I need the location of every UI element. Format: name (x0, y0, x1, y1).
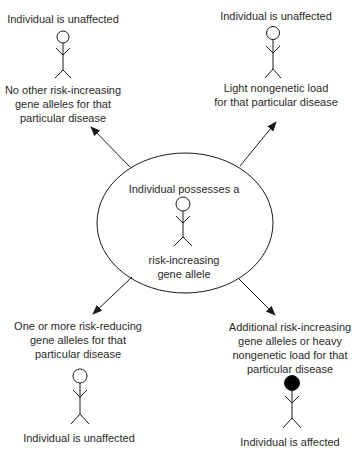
bottom-right-condition-line-1: Additional risk-increasing (229, 320, 351, 334)
top-left-condition-line-2: gene alleles for that (5, 97, 121, 111)
top-left-condition-line-3: particular disease (5, 111, 121, 125)
bottom-right-condition-label: Additional risk-increasing gene alleles … (229, 320, 351, 376)
arrow-bottom-left (93, 277, 132, 314)
top-right-result-label: Individual is unaffected (220, 9, 332, 23)
arrow-top-left (91, 127, 130, 167)
bottom-right-result-label: Individual is affected (240, 435, 339, 449)
bottom-right-condition-line-2: gene alleles or heavy (229, 334, 351, 348)
bottom-right-condition-line-4: particular disease (229, 362, 351, 376)
stick-figure-icon-bottom-right-affected (283, 376, 301, 429)
bottom-left-condition-line-2: gene alleles for that (14, 333, 142, 347)
arrow-top-right (240, 122, 276, 166)
stick-figure-icon-bottom-left (71, 369, 89, 424)
stick-figure-icon-top-left (55, 31, 71, 78)
arrow-bottom-right (238, 278, 275, 315)
top-left-condition-label: No other risk-increasing gene alleles fo… (5, 83, 121, 125)
top-left-result-label: Individual is unaffected (7, 12, 119, 26)
bottom-left-condition-label: One or more risk-reducing gene alleles f… (14, 319, 142, 361)
bottom-left-condition-line-3: particular disease (14, 347, 142, 361)
bottom-left-condition-line-1: One or more risk-reducing (14, 319, 142, 333)
bottom-left-result-label: Individual is unaffected (23, 431, 135, 445)
center-bottom-label: risk-increasing gene allele (149, 253, 220, 281)
top-right-condition-line-2: for that particular disease (214, 95, 338, 109)
top-right-condition-label: Light nongenetic load for that particula… (214, 81, 338, 109)
stick-figure-icon-center (174, 197, 192, 246)
diagram-canvas (0, 0, 361, 460)
stick-figure-icon-top-right (265, 27, 281, 79)
top-left-condition-line-1: No other risk-increasing (5, 83, 121, 97)
center-top-label: Individual possesses a (129, 182, 240, 196)
top-right-condition-line-1: Light nongenetic load (214, 81, 338, 95)
bottom-right-condition-line-3: nongenetic load for that (229, 348, 351, 362)
center-bottom-line-2: gene allele (149, 267, 220, 281)
center-bottom-line-1: risk-increasing (149, 253, 220, 267)
